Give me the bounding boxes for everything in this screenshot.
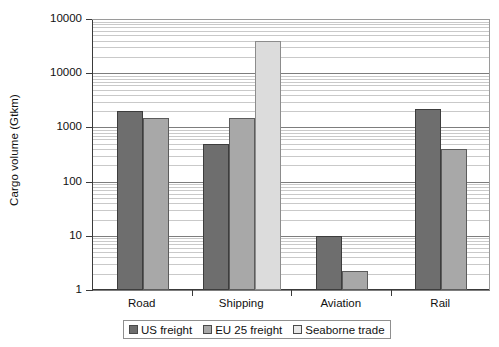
gridline-minor	[93, 47, 490, 48]
gridline-minor	[93, 102, 490, 103]
bar-rail-us-freight	[415, 109, 441, 290]
gridline-minor	[93, 82, 490, 83]
gridline-minor	[93, 27, 490, 28]
x-axis-label-shipping: Shipping	[192, 297, 292, 310]
bar-shipping-eu-25-freight	[229, 118, 255, 290]
y-axis-title-text: Cargo volume (Gtkm)	[8, 94, 20, 206]
plot-area	[92, 19, 490, 290]
gridline-minor	[93, 95, 490, 96]
x-axis-label-rail: Rail	[391, 297, 491, 310]
legend-label: US freight	[141, 324, 192, 336]
gridline-minor	[93, 57, 490, 58]
gridline-minor	[93, 24, 490, 25]
cargo-volume-bar-chart: Cargo volume (Gtkm) 10000100001000100101…	[0, 0, 499, 347]
chart-legend: US freightEU 25 freightSeaborne trade	[123, 320, 391, 339]
y-axis-tick	[86, 290, 93, 291]
y-axis-tick-label: 10000	[26, 67, 82, 79]
bar-road-us-freight	[117, 111, 143, 290]
x-axis-label-aviation: Aviation	[291, 297, 391, 310]
legend-swatch-icon	[129, 325, 138, 334]
legend-label: EU 25 freight	[215, 324, 282, 336]
y-axis-tick-label: 100	[26, 176, 82, 188]
bar-aviation-eu-25-freight	[342, 271, 368, 290]
gridline-minor	[93, 85, 490, 86]
bar-shipping-us-freight	[203, 144, 229, 290]
gridline-minor	[93, 22, 490, 23]
gridline-minor	[93, 90, 490, 91]
legend-swatch-icon	[293, 325, 302, 334]
gridline-major	[93, 73, 490, 74]
y-axis-tick-label: 1000	[26, 121, 82, 133]
bar-aviation-us-freight	[316, 236, 342, 290]
y-axis-tick-label: 10	[26, 230, 82, 242]
legend-swatch-icon	[203, 325, 212, 334]
y-axis-tick-label: 1	[26, 284, 82, 296]
gridline-minor	[93, 41, 490, 42]
legend-item-seaborne-trade: Seaborne trade	[293, 324, 384, 336]
x-axis-tick	[291, 290, 292, 296]
bar-shipping-seaborne-trade	[255, 41, 281, 290]
gridline-minor	[93, 76, 490, 77]
x-axis-tick	[391, 290, 392, 296]
bar-rail-eu-25-freight	[441, 149, 467, 290]
y-axis-title: Cargo volume (Gtkm)	[2, 0, 26, 300]
x-axis-label-road: Road	[92, 297, 192, 310]
gridline-minor	[93, 31, 490, 32]
gridline-minor	[93, 79, 490, 80]
plot-frame-right-border	[489, 19, 490, 290]
legend-item-eu-25-freight: EU 25 freight	[203, 324, 282, 336]
plot-frame-top-border	[92, 19, 490, 20]
gridline-minor	[93, 35, 490, 36]
legend-label: Seaborne trade	[305, 324, 384, 336]
legend-item-us-freight: US freight	[129, 324, 192, 336]
y-axis-tick-label: 10000	[26, 13, 82, 25]
x-axis-tick	[192, 290, 193, 296]
bar-road-eu-25-freight	[143, 118, 169, 290]
